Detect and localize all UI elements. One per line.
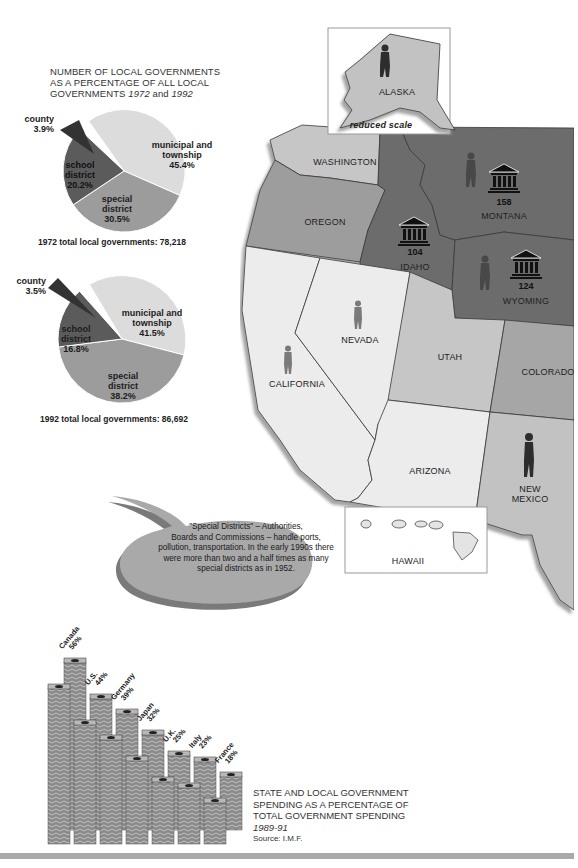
label-text: district — [96, 381, 150, 391]
caption-line: STATE AND LOCAL GOVERNMENT — [253, 787, 409, 799]
person-icon-nevada — [353, 300, 363, 334]
caption-years: 1989-91 — [253, 822, 409, 834]
label-washington: WASHINGTON — [300, 157, 390, 167]
label-text: township — [105, 318, 199, 328]
label-idaho: IDAHO — [395, 262, 435, 272]
label-value: 30.5% — [92, 214, 142, 224]
label-county-1992: county 3.5% — [8, 276, 46, 296]
label-text: county — [14, 114, 54, 124]
person-icon-wyoming — [479, 255, 491, 295]
label-text: municipal and — [105, 308, 199, 318]
label-montana: MONTANA — [474, 211, 534, 221]
pie-total-1992: 1992 total local governments: 86,692 — [40, 414, 188, 424]
title-line: NUMBER OF LOCAL GOVERNMENTS — [50, 66, 220, 77]
title-text: and — [150, 88, 172, 99]
bar-stack — [100, 739, 122, 844]
label-text: district — [58, 170, 102, 180]
callout-text: "Special Districts" – Authorities, Board… — [146, 522, 346, 575]
label-text: district — [54, 334, 98, 344]
label-municipal-1992: municipal and township 41.5% — [105, 308, 199, 338]
label-value: 20.2% — [58, 180, 102, 190]
bottom-rule — [0, 853, 574, 859]
person-icon-california — [283, 345, 293, 379]
caption-line: TOTAL GOVERNMENT SPENDING — [253, 810, 409, 822]
label-wyoming: WYOMING — [496, 296, 556, 306]
label-text: county — [8, 276, 46, 286]
label-county-1972: county 3.9% — [14, 114, 54, 134]
label-nevada: NEVADA — [335, 335, 385, 345]
label-value: 38.2% — [96, 391, 150, 401]
title-line: AS A PERCENTAGE OF ALL LOCAL — [50, 77, 220, 88]
person-icon-alaska — [379, 44, 391, 82]
callout-line: were more than two and a half times as m… — [146, 554, 346, 565]
label-text: district — [92, 204, 142, 214]
building-icon-wyoming — [510, 249, 542, 283]
bar-stack — [152, 781, 174, 844]
pie-total-1972: 1972 total local governments: 78,218 — [38, 237, 186, 247]
bar-stack — [126, 760, 148, 844]
building-icon-montana — [488, 163, 520, 197]
label-school-1972: school district 20.2% — [58, 160, 102, 190]
title-year: 1972 — [128, 88, 150, 99]
spending-caption: STATE AND LOCAL GOVERNMENT SPENDING AS A… — [253, 787, 409, 845]
label-alaska: ALASKA — [372, 87, 422, 97]
count-wyoming: 124 — [511, 281, 541, 291]
label-reduced-scale: reduced scale — [341, 120, 421, 130]
label-value: 3.5% — [8, 286, 46, 296]
spending-bar-chart — [0, 600, 260, 850]
bar-stack — [204, 802, 226, 844]
count-idaho: 104 — [400, 247, 430, 257]
callout-line: "Special Districts" – Authorities, — [146, 522, 346, 533]
label-text: MEXICO — [508, 494, 552, 504]
label-text: NEW — [508, 484, 552, 494]
caption-line: SPENDING AS A PERCENTAGE OF — [253, 799, 409, 811]
bar-stack — [178, 787, 200, 844]
label-oregon: OREGON — [295, 217, 355, 227]
label-value: 3.9% — [14, 124, 54, 134]
label-california: CALIFORNIA — [262, 379, 332, 389]
label-arizona: ARIZONA — [400, 466, 460, 476]
label-text: township — [142, 150, 222, 160]
label-colorado: COLORADO — [518, 367, 578, 377]
title-line: GOVERNMENTS 1972 and 1992 — [50, 88, 220, 99]
callout-line: Boards and Commissions – handle ports, — [146, 533, 346, 544]
bar-columns — [48, 658, 242, 844]
label-hawaii: HAWAII — [383, 556, 433, 566]
label-text: school — [54, 324, 98, 334]
label-text: special — [92, 194, 142, 204]
label-value: 45.4% — [142, 160, 222, 170]
caption-source: Source: I.M.F. — [253, 833, 409, 845]
person-icon-new-mexico — [523, 432, 535, 482]
label-special-1972: special district 30.5% — [92, 194, 142, 224]
label-special-1992: special district 38.2% — [96, 371, 150, 401]
label-text: municipal and — [142, 140, 222, 150]
person-icon-montana — [465, 152, 477, 192]
title-text: GOVERNMENTS — [50, 88, 128, 99]
label-text: school — [58, 160, 102, 170]
label-value: 41.5% — [105, 328, 199, 338]
label-new-mexico: NEW MEXICO — [508, 484, 552, 504]
label-utah: UTAH — [430, 352, 470, 362]
count-montana: 158 — [489, 197, 519, 207]
title-year: 1992 — [171, 88, 193, 99]
label-text: special — [96, 371, 150, 381]
callout-line: pollution, transportation. In the early … — [146, 543, 346, 554]
pie-section-title: NUMBER OF LOCAL GOVERNMENTS AS A PERCENT… — [50, 66, 220, 99]
bar-stack — [74, 724, 96, 844]
label-school-1992: school district 16.8% — [54, 324, 98, 354]
label-value: 16.8% — [54, 344, 98, 354]
label-municipal-1972: municipal and township 45.4% — [142, 140, 222, 170]
building-icon-idaho — [398, 216, 430, 250]
callout-line: special districts as in 1952. — [146, 564, 346, 575]
bar-stack — [48, 688, 70, 844]
